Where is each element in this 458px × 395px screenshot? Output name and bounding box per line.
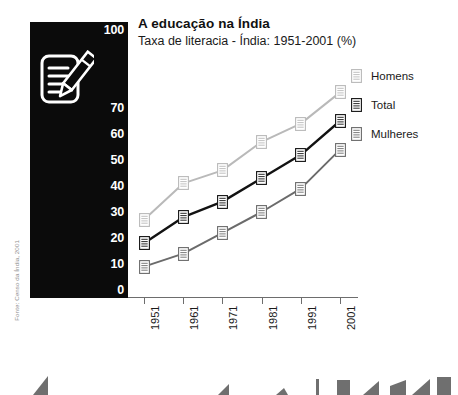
- document-pencil-icon: [38, 50, 94, 108]
- y-axis-label: 70: [110, 102, 124, 114]
- x-axis-label: 1991: [306, 306, 318, 330]
- x-axis-tick: [183, 298, 184, 304]
- y-axis-label: 50: [110, 154, 124, 166]
- data-point-marker: [217, 195, 228, 209]
- data-point-marker: [139, 260, 150, 274]
- y-axis-panel: 100706050403020100: [30, 22, 128, 298]
- y-axis-label: 30: [110, 206, 124, 218]
- legend-label: Homens: [371, 69, 414, 83]
- data-point-marker: [335, 143, 346, 157]
- series-line: [144, 150, 340, 267]
- x-axis-tick: [262, 298, 263, 304]
- plot-area: 195119611971198119912001 HomensTotalMulh…: [128, 22, 358, 298]
- data-point-marker: [178, 176, 189, 190]
- data-point-marker: [178, 247, 189, 261]
- data-point-marker: [295, 117, 306, 131]
- x-axis-label: 1971: [227, 306, 239, 330]
- x-axis-tick: [340, 298, 341, 304]
- x-axis-line: [128, 297, 358, 298]
- series-lines: [128, 22, 358, 298]
- x-axis-label: 1961: [188, 306, 200, 330]
- y-axis-label: 20: [110, 232, 124, 244]
- data-point-marker: [139, 213, 150, 227]
- series-line: [144, 121, 340, 243]
- legend-marker-icon: [351, 127, 362, 141]
- data-point-marker: [256, 135, 267, 149]
- y-axis-label: 0: [117, 284, 124, 296]
- legend-marker-icon: [351, 69, 362, 83]
- data-point-marker: [295, 182, 306, 196]
- data-point-marker: [217, 163, 228, 177]
- data-point-marker: [256, 171, 267, 185]
- x-axis-label: 2001: [345, 306, 357, 330]
- y-axis-label: 100: [104, 24, 124, 36]
- data-point-marker: [217, 226, 228, 240]
- data-point-marker: [178, 210, 189, 224]
- data-point-marker: [335, 85, 346, 99]
- x-axis-tick: [301, 298, 302, 304]
- y-axis-label: 10: [110, 258, 124, 270]
- data-point-marker: [335, 114, 346, 128]
- data-point-marker: [295, 148, 306, 162]
- x-axis-label: 1951: [149, 306, 161, 330]
- data-point-marker: [256, 205, 267, 219]
- source-caption: Fonte: Censo da Índia, 2001: [13, 240, 20, 321]
- legend-label: Total: [371, 98, 395, 112]
- figure-root: Fonte: Censo da Índia, 2001 100706050403…: [0, 0, 458, 395]
- y-axis-label: 40: [110, 180, 124, 192]
- legend-marker-icon: [351, 98, 362, 112]
- x-axis-tick: [222, 298, 223, 304]
- scan-artifact: [0, 362, 458, 395]
- y-axis-label: 60: [110, 128, 124, 140]
- x-axis-label: 1981: [267, 306, 279, 330]
- legend-label: Mulheres: [371, 127, 418, 141]
- data-point-marker: [139, 236, 150, 250]
- series-line: [144, 92, 340, 219]
- x-axis-tick: [144, 298, 145, 304]
